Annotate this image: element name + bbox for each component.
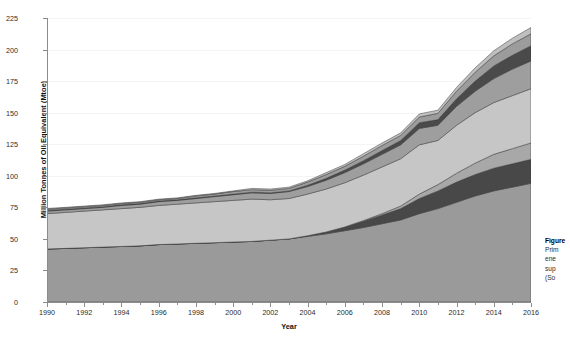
x-axis-title: Year [47, 322, 531, 331]
x-tick-label: 2004 [288, 308, 328, 317]
x-tick-label: 2006 [325, 308, 365, 317]
y-tick-label: 0 [0, 298, 18, 307]
x-tick-mark-minor [326, 303, 327, 305]
y-tick-label: 50 [0, 235, 18, 244]
x-tick-mark [308, 303, 309, 307]
area-series-group [47, 18, 531, 302]
y-tick-label: 100 [0, 172, 18, 181]
x-tick-mark [419, 303, 420, 307]
x-tick-label: 1998 [176, 308, 216, 317]
y-tick-label: 150 [0, 109, 18, 118]
x-tick-mark-minor [475, 303, 476, 305]
x-tick-mark-minor [177, 303, 178, 305]
x-tick-mark [233, 303, 234, 307]
x-tick-mark-minor [252, 303, 253, 305]
x-tick-label: 2000 [213, 308, 253, 317]
y-tick-label: 225 [0, 14, 18, 23]
caption-line-3: ene [545, 254, 570, 263]
x-tick-mark [494, 303, 495, 307]
x-tick-label: 2014 [474, 308, 514, 317]
y-tick-label: 25 [0, 266, 18, 275]
x-tick-mark [84, 303, 85, 307]
x-tick-mark [345, 303, 346, 307]
x-tick-mark-minor [401, 303, 402, 305]
x-tick-label: 2008 [362, 308, 402, 317]
plot-panel [47, 18, 531, 302]
caption-title: Figure [545, 236, 570, 245]
x-tick-label: 2012 [437, 308, 477, 317]
x-tick-mark [47, 303, 48, 307]
caption-line-4: sup [545, 264, 570, 273]
x-tick-mark-minor [289, 303, 290, 305]
figure-caption: Figure Prim ene sup (So [545, 236, 570, 282]
x-tick-mark [270, 303, 271, 307]
y-axis-line [47, 18, 48, 302]
x-tick-label: 2010 [399, 308, 439, 317]
x-tick-mark-minor [215, 303, 216, 305]
y-tick-label: 75 [0, 203, 18, 212]
x-tick-label: 2002 [250, 308, 290, 317]
x-tick-mark [531, 303, 532, 307]
x-tick-mark-minor [363, 303, 364, 305]
x-tick-mark-minor [66, 303, 67, 305]
x-tick-mark [159, 303, 160, 307]
x-tick-label: 2016 [511, 308, 551, 317]
x-tick-mark [121, 303, 122, 307]
x-tick-mark-minor [512, 303, 513, 305]
x-tick-label: 1990 [27, 308, 67, 317]
caption-line-2: Prim [545, 245, 570, 254]
x-tick-mark [196, 303, 197, 307]
x-tick-mark [382, 303, 383, 307]
x-tick-label: 1992 [64, 308, 104, 317]
x-tick-label: 1996 [139, 308, 179, 317]
x-tick-mark [457, 303, 458, 307]
caption-line-5: (So [545, 273, 570, 282]
y-tick-label: 175 [0, 77, 18, 86]
y-tick-label: 200 [0, 46, 18, 55]
x-tick-label: 1994 [101, 308, 141, 317]
x-tick-mark-minor [103, 303, 104, 305]
x-tick-mark-minor [140, 303, 141, 305]
x-tick-mark-minor [438, 303, 439, 305]
y-tick-label: 125 [0, 140, 18, 149]
